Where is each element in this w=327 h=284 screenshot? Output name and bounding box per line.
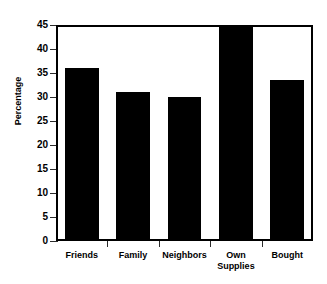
- y-tick-label-40: 40: [18, 44, 48, 54]
- bar[interactable]: [219, 26, 253, 241]
- x-tick-2: [159, 241, 160, 247]
- bar-slot: [65, 25, 99, 241]
- bar-chart: Percentage 051015202530354045 FriendsFam…: [0, 0, 327, 284]
- y-tick-label-25: 25: [18, 116, 48, 126]
- bar[interactable]: [168, 97, 202, 241]
- x-axis-label-bought: Bought: [256, 250, 319, 261]
- y-tick-label-20: 20: [18, 140, 48, 150]
- bar-slot: [270, 25, 304, 241]
- y-tick-label-30: 30: [18, 92, 48, 102]
- bar[interactable]: [270, 80, 304, 241]
- x-tick-1: [107, 241, 108, 247]
- y-tick-label-15: 15: [18, 164, 48, 174]
- chart-title-remnant: [62, 0, 262, 6]
- bars-group: [56, 25, 313, 241]
- bar-slot: [219, 25, 253, 241]
- x-tick-3: [210, 241, 211, 247]
- bar[interactable]: [116, 92, 150, 241]
- x-tick-4: [262, 241, 263, 247]
- y-tick-label-5: 5: [18, 212, 48, 222]
- y-tick-label-0: 0: [18, 236, 48, 246]
- y-tick-label-10: 10: [18, 188, 48, 198]
- bar-slot: [168, 25, 202, 241]
- y-tick-label-45: 45: [18, 20, 48, 30]
- bar[interactable]: [65, 68, 99, 241]
- y-tick-0: [50, 241, 58, 242]
- y-tick-label-35: 35: [18, 68, 48, 78]
- bar-slot: [116, 25, 150, 241]
